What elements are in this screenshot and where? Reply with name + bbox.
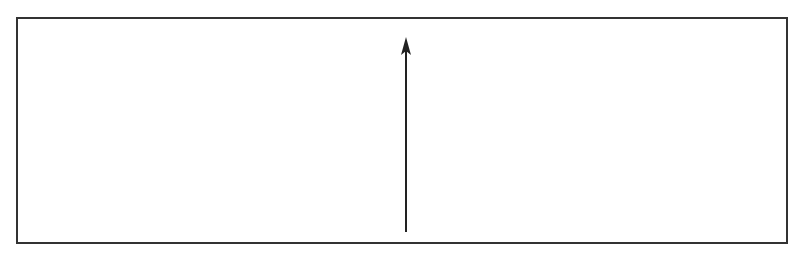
up-arrow-icon: [0, 0, 805, 264]
